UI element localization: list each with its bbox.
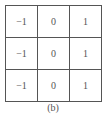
matrix-cell: 1 [70, 38, 102, 70]
matrix-cell: 0 [38, 38, 70, 70]
matrix-cell: −1 [6, 70, 38, 102]
kernel-matrix: −1 0 1 −1 0 1 −1 0 1 [5, 5, 102, 102]
matrix-row: −1 0 1 [6, 70, 102, 102]
matrix-cell: 0 [38, 70, 70, 102]
matrix-row: −1 0 1 [6, 38, 102, 70]
matrix-cell: 1 [70, 6, 102, 38]
matrix-cell: −1 [6, 6, 38, 38]
matrix-cell: 0 [38, 6, 70, 38]
matrix-row: −1 0 1 [6, 6, 102, 38]
figure-caption: (b) [0, 102, 106, 113]
matrix-cell: −1 [6, 38, 38, 70]
matrix-cell: 1 [70, 70, 102, 102]
